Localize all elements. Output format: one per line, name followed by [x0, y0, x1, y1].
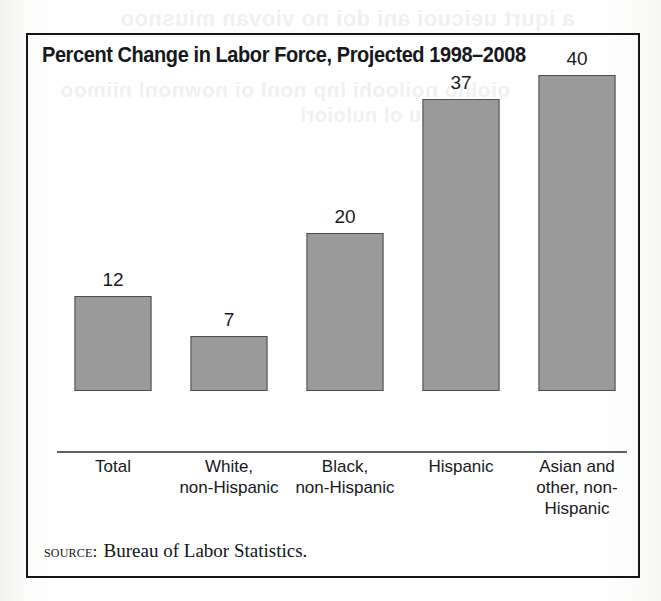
- bar-group: 20Black,non-Hispanic: [289, 35, 401, 576]
- bar-group: 12Total: [57, 35, 169, 576]
- category-label: Total: [54, 456, 172, 477]
- bar[interactable]: [307, 233, 384, 391]
- source-note: source:Bureau of Labor Statistics.: [44, 540, 307, 562]
- bleed-through-text-1: a iqurt ueicuoi ani doi no viovan miusno…: [120, 6, 574, 32]
- category-label: Asian andother, non-Hispanic: [518, 456, 636, 519]
- bar-value-label: 37: [450, 72, 471, 94]
- category-label: Hispanic: [402, 456, 520, 477]
- bar[interactable]: [191, 336, 268, 391]
- bar-group: 40Asian andother, non-Hispanic: [521, 35, 633, 576]
- bar[interactable]: [75, 296, 152, 391]
- bar-value-label: 7: [224, 309, 235, 331]
- source-text: Bureau of Labor Statistics.: [104, 540, 308, 561]
- bar-group: 7White,non-Hispanic: [173, 35, 285, 576]
- bar-chart-plot-area: 12Total7White,non-Hispanic20Black,non-Hi…: [28, 35, 638, 576]
- category-label: Black,non-Hispanic: [286, 456, 404, 498]
- bar-value-label: 20: [334, 206, 355, 228]
- figure-page: a iqurt ueicuoi ani doi no viovan miusno…: [0, 0, 661, 601]
- bar-value-label: 12: [102, 269, 123, 291]
- figure-frame: Percent Change in Labor Force, Projected…: [26, 33, 640, 578]
- bar[interactable]: [423, 99, 500, 391]
- source-label: source:: [44, 541, 98, 561]
- category-label: White,non-Hispanic: [170, 456, 288, 498]
- bar-group: 37Hispanic: [405, 35, 517, 576]
- bar[interactable]: [539, 75, 616, 391]
- bar-value-label: 40: [566, 48, 587, 70]
